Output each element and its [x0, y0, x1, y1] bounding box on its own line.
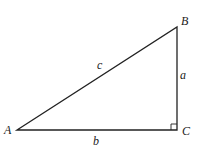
vertex-label-b: B [181, 14, 189, 28]
side-label-b: b [93, 134, 99, 148]
right-triangle-diagram: A B C a b c [0, 0, 198, 155]
vertex-label-c: C [182, 124, 191, 138]
triangle-shape [17, 27, 177, 130]
side-label-a: a [180, 68, 186, 82]
side-label-c: c [97, 58, 103, 72]
right-angle-marker [171, 124, 177, 130]
vertex-label-a: A [3, 123, 12, 137]
